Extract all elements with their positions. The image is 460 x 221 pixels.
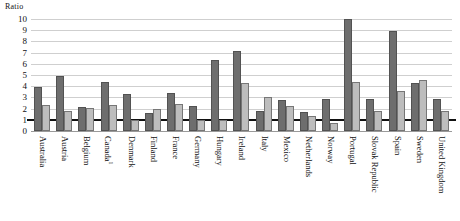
bar-series-1 [322,99,330,131]
bar-series-2 [264,97,272,131]
bar-group [53,19,75,131]
bar-series-1 [233,51,241,131]
bar-group [31,19,53,131]
bar-group [97,19,119,131]
x-axis-label: Belgium [75,134,97,220]
x-axis-label-text: Denmark [126,136,135,168]
x-axis-label-text: Hungary [215,136,224,166]
bar-group [208,19,230,131]
bar-series-1 [433,99,441,131]
bar-group [341,19,363,131]
x-axis-label-text: Australia [38,136,47,167]
x-axis-label: Germany [186,134,208,220]
bar-series-2 [109,105,117,131]
x-axis-label: Austria [53,134,75,220]
bar-series-1 [167,93,175,131]
bar-group [120,19,142,131]
bar-group [408,19,430,131]
x-axis-label-text: Spain [392,136,401,155]
bar-series-1 [278,100,286,131]
x-axis-label-text: Norway [326,136,335,163]
x-axis-label-text: Austria [60,136,69,161]
x-axis-label: Australia [31,134,53,220]
bar-series-1 [78,107,86,131]
bar-group [319,19,341,131]
x-axis-category-labels: AustraliaAustriaBelgiumCanada1DenmarkFin… [31,134,452,220]
bar-series-2 [441,111,449,131]
x-axis-label: Sweden [408,134,430,220]
y-tick-label-0: 0 [9,127,27,136]
bar-series-1 [411,83,419,131]
bar-series-2 [64,111,72,131]
bar-group [164,19,186,131]
bar-series-1 [123,94,131,131]
y-tick-label-8: 8 [9,37,27,46]
bar-series-2 [308,116,316,131]
x-axis-label: France [164,134,186,220]
y-tick-label-10: 10 [9,15,27,24]
plot-area: 109876543210 [31,19,452,131]
x-axis-label: Mexico [275,134,297,220]
bar-group [430,19,452,131]
bar-series-1 [300,112,308,131]
x-axis-label-text: Finland [148,136,157,162]
x-axis-label: Portugal [341,134,363,220]
bar-group [230,19,252,131]
bar-series-2 [197,120,205,131]
x-axis-label-text: Netherlands [303,136,312,177]
bar-series-1 [56,76,64,131]
x-axis-label: Italy [253,134,275,220]
bar-group [142,19,164,131]
bar-series-1 [34,87,42,131]
bar-group [297,19,319,131]
bar-group [275,19,297,131]
bar-series-2 [374,111,382,131]
x-axis-label: United Kingdom [430,134,452,220]
bar-series-2 [241,83,249,131]
y-tick-label-1: 1 [9,115,27,124]
bar-series-2 [219,120,227,131]
x-axis-label: Slovak Republic [363,134,385,220]
bar-series-1 [211,60,219,131]
bar-groups [31,19,452,131]
x-axis-label: Norway [319,134,341,220]
x-axis-label-text: France [171,136,180,159]
bar-group [363,19,385,131]
bar-series-2 [352,82,360,131]
x-axis-label: Spain [386,134,408,220]
x-axis-label: Netherlands [297,134,319,220]
x-axis-label-text: Portugal [348,136,357,165]
y-tick-label-3: 3 [9,93,27,102]
bar-series-2 [419,80,427,131]
bar-series-1 [389,31,397,131]
y-tick-label-9: 9 [9,26,27,35]
x-axis-label-text: Ireland [237,136,246,160]
x-axis-label: Hungary [208,134,230,220]
x-axis-label: Canada1 [97,134,119,220]
bar-group [253,19,275,131]
x-axis-label-text: Canada1 [103,136,115,165]
bar-series-2 [86,108,94,131]
x-axis-label-text: Belgium [82,136,91,165]
bar-series-2 [175,104,183,131]
y-tick-label-4: 4 [9,82,27,91]
bar-group [386,19,408,131]
x-axis-label-text: United Kingdom [436,136,445,193]
x-axis-label: Finland [142,134,164,220]
bar-series-1 [366,99,374,131]
x-axis-label: Ireland [230,134,252,220]
bar-series-2 [286,106,294,131]
bar-series-2 [131,120,139,131]
gridline-0 [31,131,452,132]
bar-series-2 [42,105,50,131]
bar-series-1 [189,106,197,131]
y-tick-label-5: 5 [9,71,27,80]
x-axis-label-text: Italy [259,136,268,152]
x-axis-label-text: Sweden [414,136,423,163]
y-axis-unit-label: Ratio [5,2,23,11]
x-axis-label-text: Slovak Republic [370,136,379,192]
y-tick-label-7: 7 [9,48,27,57]
bar-group [186,19,208,131]
bar-series-2 [330,123,338,131]
bar-chart-figure: Ratio 109876543210 AustraliaAustriaBelgi… [0,0,460,221]
